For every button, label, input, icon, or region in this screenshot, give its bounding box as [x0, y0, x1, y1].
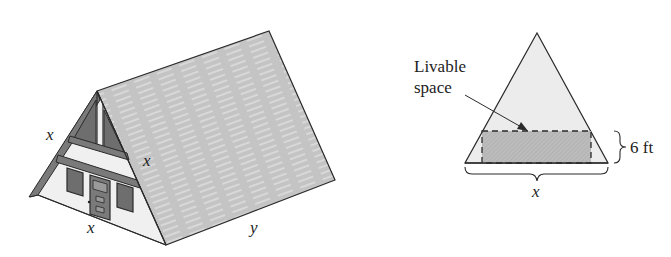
base-label: x	[531, 182, 540, 201]
window-right	[117, 183, 133, 212]
a-frame-house	[29, 31, 335, 245]
callout-livable: Livable	[414, 57, 466, 76]
a-frame-diagram: x x x y Livable space 6 ft x	[0, 0, 671, 257]
window-left	[67, 168, 83, 196]
cross-section-diagram	[465, 33, 626, 181]
base-brace-icon	[465, 167, 608, 181]
height-brace-icon	[614, 131, 626, 163]
door-knob	[88, 201, 90, 203]
label-front-right-edge: x	[142, 151, 151, 170]
label-front-base: x	[86, 218, 95, 237]
callout-space: space	[414, 78, 452, 97]
livable-space-rect	[482, 131, 591, 163]
label-front-left-edge: x	[45, 125, 54, 144]
label-side-length: y	[248, 218, 258, 237]
height-label: 6 ft	[630, 138, 653, 157]
